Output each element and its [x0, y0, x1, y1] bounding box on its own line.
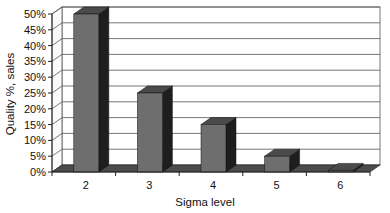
- x-tick-label: 2: [83, 179, 89, 191]
- x-tick-label: 3: [146, 179, 152, 191]
- x-axis-title: Sigma level: [175, 196, 234, 208]
- y-tick-label: 40%: [24, 40, 46, 52]
- y-axis-title: Quality %, sales: [4, 53, 16, 136]
- bar-3: [137, 86, 172, 172]
- y-tick-label: 10%: [24, 134, 46, 146]
- y-tick-label: 0%: [30, 166, 46, 178]
- y-tick-label: 20%: [24, 103, 46, 115]
- x-axis: 23456: [52, 172, 370, 191]
- y-tick-label: 35%: [24, 55, 46, 67]
- x-tick-label: 4: [210, 179, 216, 191]
- bar-5: [265, 149, 300, 172]
- y-tick-label: 5%: [30, 150, 46, 162]
- y-tick-label: 25%: [24, 87, 46, 99]
- y-tick-label: 50%: [24, 8, 46, 20]
- bar-2: [74, 7, 109, 172]
- x-tick-label: 6: [337, 179, 343, 191]
- y-tick-label: 15%: [24, 119, 46, 131]
- sigma-quality-bar-chart: 0%5%10%15%20%25%30%35%40%45%50% 23456 Qu…: [0, 0, 390, 213]
- y-axis: 0%5%10%15%20%25%30%35%40%45%50%: [24, 8, 52, 178]
- x-tick-label: 5: [274, 179, 280, 191]
- y-tick-label: 45%: [24, 24, 46, 36]
- y-tick-label: 30%: [24, 71, 46, 83]
- bar-4: [201, 118, 236, 172]
